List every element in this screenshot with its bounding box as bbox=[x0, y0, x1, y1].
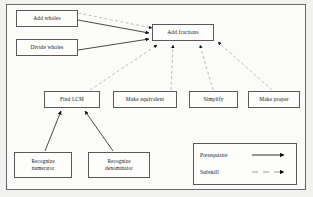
node-label-wrapper: Recognize denominator bbox=[105, 158, 133, 172]
node-label-line1: Recognize bbox=[107, 158, 130, 164]
node-label: Make proper bbox=[259, 96, 288, 103]
node-label: Make equivalent bbox=[126, 96, 164, 103]
node-find-lcm[interactable]: Find LCM bbox=[44, 91, 100, 108]
node-label: Add wholes bbox=[33, 15, 60, 22]
node-label: Simplify bbox=[203, 96, 223, 103]
diagram-canvas: Add wholes Divide wholes Add fractions F… bbox=[0, 0, 313, 197]
legend-box: Prerequisite Subskill bbox=[193, 143, 297, 185]
legend-label-prerequisite: Prerequisite bbox=[200, 152, 250, 158]
node-make-equivalent[interactable]: Make equivalent bbox=[113, 91, 177, 108]
node-add-wholes[interactable]: Add wholes bbox=[16, 10, 78, 27]
legend-sample-prerequisite-arrow bbox=[250, 150, 294, 160]
node-label: Find LCM bbox=[60, 96, 84, 103]
legend-row-subskill: Subskill bbox=[200, 166, 294, 178]
node-recognize-numerator[interactable]: Recognize numerator bbox=[14, 152, 72, 178]
node-simplify[interactable]: Simplify bbox=[189, 91, 238, 108]
node-label: Add fractions bbox=[167, 29, 198, 36]
node-recognize-denominator[interactable]: Recognize denominator bbox=[88, 152, 150, 178]
node-label-wrapper: Recognize numerator bbox=[31, 158, 54, 172]
node-divide-wholes[interactable]: Divide wholes bbox=[16, 39, 78, 56]
node-label-line2: numerator bbox=[32, 165, 55, 171]
node-add-fractions[interactable]: Add fractions bbox=[152, 24, 214, 41]
node-label: Divide wholes bbox=[30, 44, 63, 51]
legend-sample-subskill-arrow bbox=[250, 167, 294, 177]
node-label-line2: denominator bbox=[105, 165, 133, 171]
node-label-line1: Recognize bbox=[31, 158, 54, 164]
node-make-proper[interactable]: Make proper bbox=[248, 91, 300, 108]
legend-row-prerequisite: Prerequisite bbox=[200, 149, 294, 161]
legend-label-subskill: Subskill bbox=[200, 169, 250, 175]
